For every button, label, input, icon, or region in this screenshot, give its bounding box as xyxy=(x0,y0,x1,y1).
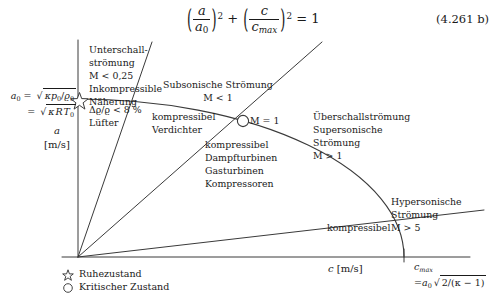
T0-subscript: 0 xyxy=(70,111,74,119)
annotation-line: kompressibel xyxy=(205,139,277,152)
cmax-subscript: max xyxy=(419,266,433,274)
legend-item-critical-state: Kritischer Zustand xyxy=(62,281,169,294)
annotation-line: Supersonische xyxy=(313,124,410,137)
circle-icon xyxy=(62,282,73,293)
legend: Ruhezustand Kritischer Zustand xyxy=(62,268,169,294)
cmax-annotation-line-1: cmax xyxy=(414,260,486,275)
cmax-annotation: cmax =a0√2/(κ − 1) xyxy=(414,260,486,292)
annotation-line: Inkompressible xyxy=(89,83,162,96)
sqrt-kappa-R-T0: √κ R T0 xyxy=(38,104,76,120)
cmax-equals: = xyxy=(414,277,422,288)
a0-equals-2: = xyxy=(27,106,35,117)
annotation-line: M > 1 xyxy=(313,150,410,163)
annotation-subsonic-incompressible: Unterschall- strömung M < 0,25 Inkompres… xyxy=(89,44,162,109)
annotation-line: Gasturbinen xyxy=(205,165,277,178)
y-axis-label: a [m/s] xyxy=(42,124,72,151)
y-axis-formula-line-1: a0 = √κp0/ϱ0 xyxy=(4,88,76,104)
rho0-subscript: 0 xyxy=(70,95,74,103)
y-axis-symbol: a xyxy=(42,124,72,138)
cmax-annotation-line-2: =a0√2/(κ − 1) xyxy=(414,275,486,291)
x-axis-unit: [m/s] xyxy=(337,263,363,274)
annotation-line: Subsonische Strömung xyxy=(163,79,273,92)
annotation-fan-density-change: Δϱ/ϱ < 8 % Lüfter xyxy=(89,104,142,130)
annotation-line: M < 0,25 xyxy=(89,70,162,83)
annotation-line: M < 1 xyxy=(163,92,273,105)
y-axis-unit: [m/s] xyxy=(42,138,72,152)
annotation-line: Unterschall- xyxy=(89,44,162,57)
y-axis-formula: a0 = √κp0/ϱ0 = √κ R T0 xyxy=(4,88,76,120)
annotation-critical-point-label: M = 1 xyxy=(250,115,279,128)
x-axis-symbol: c xyxy=(328,263,334,274)
annotation-supersonic-flow: Überschallströmung Supersonische Strömun… xyxy=(313,111,410,163)
x-axis-label: c [m/s] xyxy=(328,263,363,274)
annotation-line: Dampfturbinen xyxy=(205,152,277,165)
sqrt-kappa-p0-rho0: √κp0/ϱ0 xyxy=(35,88,76,104)
annotation-line: Kompressoren xyxy=(205,178,277,191)
cmax-radicand: 2/(κ − 1) xyxy=(440,275,487,290)
critical-state-circle-marker xyxy=(237,115,248,126)
annotation-line: Hypersonische xyxy=(391,196,462,209)
y-axis-formula-line-2: = √κ R T0 xyxy=(4,104,76,120)
annotation-line: strömung xyxy=(89,57,162,70)
annotation-line: Strömung xyxy=(391,209,462,222)
annotation-line: Lüfter xyxy=(89,117,142,130)
a0-subscript: 0 xyxy=(16,95,20,103)
annotation-line: kompressibel xyxy=(152,111,215,124)
sqrt-2-over-kappa-minus-1: √2/(κ − 1) xyxy=(432,275,487,290)
annotation-hypersonic-flow: Hypersonische Strömung M > 5 xyxy=(391,196,462,235)
annotation-line: Verdichter xyxy=(152,124,215,137)
annotation-line: Δϱ/ϱ < 8 % xyxy=(89,104,142,117)
annotation-compressible-compressor: kompressibel Verdichter xyxy=(152,111,215,137)
a0-equals-1: = xyxy=(24,90,32,101)
annotation-line: Strömung xyxy=(313,137,410,150)
annotation-line: Überschallströmung xyxy=(313,111,410,124)
kappa-2: κ xyxy=(48,106,54,117)
legend-item-rest-state: Ruhezustand xyxy=(62,268,169,281)
star-icon xyxy=(62,269,73,280)
annotation-line: M > 5 xyxy=(391,222,462,235)
annotation-subsonic-flow: Subsonische Strömung M < 1 xyxy=(163,79,273,105)
annotation-compressible-bottom: kompressibel xyxy=(327,222,390,235)
gas-constant-R: R xyxy=(55,106,62,117)
figure-canvas: (aa0)2 + (ccmax)2 = 1 (4.261 b) xyxy=(0,0,497,300)
legend-label-critical-state: Kritischer Zustand xyxy=(79,280,169,295)
annotation-turbines-compressors: kompressibel Dampfturbinen Gasturbinen K… xyxy=(205,139,277,191)
